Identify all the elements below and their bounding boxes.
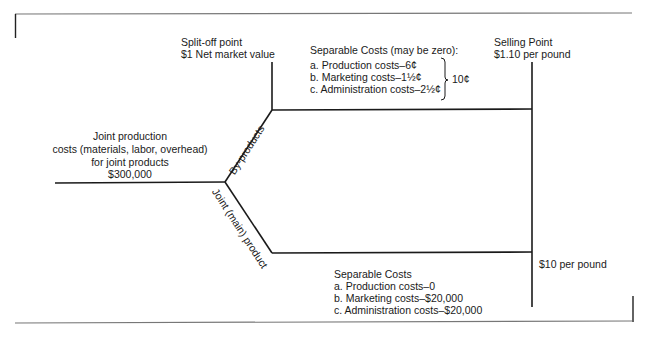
cost-brace [441,58,448,100]
by-product-cost-item: c. Administration costs–2½¢ [310,83,441,95]
selling-point-title: Selling Point [494,36,552,48]
frame-bottom-line [15,321,632,323]
frame-top-line [15,13,632,14]
joint-cost-line [55,182,225,183]
by-product-cost-item: a. Production costs–6¢ [310,59,417,71]
by-product-line [272,109,532,110]
main-product-costs-title: Separable Costs [334,268,412,280]
by-product-cost-total: 10¢ [452,73,470,85]
split-off-value: $1 Net market value [181,48,275,60]
joint-costs-line3: for joint products [50,156,210,168]
main-product-cost-item: b. Marketing costs–$20,000 [334,292,463,304]
main-product-price: $10 per pound [539,258,607,270]
by-product-price: $1.10 per pound [494,48,570,60]
main-product-line [272,252,532,253]
split-off-title: Split-off point [181,36,242,48]
main-product-cost-item: c. Administration costs–$20,000 [334,304,482,316]
joint-costs-line2: costs (materials, labor, overhead) [40,143,220,155]
joint-costs-amount: $300,000 [50,168,210,180]
joint-costs-line1: Joint production [50,130,210,142]
by-product-costs-title: Separable Costs (may be zero): [310,44,458,56]
by-product-cost-item: b. Marketing costs–1½¢ [310,71,421,83]
main-product-cost-item: a. Production costs–0 [334,280,435,292]
